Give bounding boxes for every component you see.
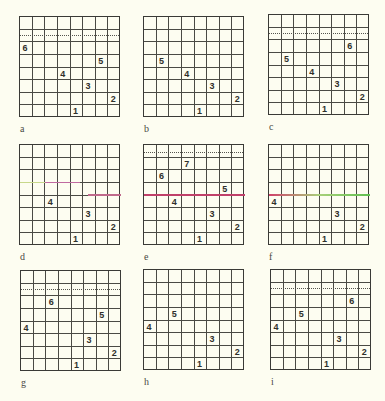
cell-number: 4: [268, 196, 280, 208]
grid-row-line: [271, 332, 370, 333]
grid-column-line: [206, 17, 207, 116]
colored-line-segment: [269, 194, 370, 195]
panel-label: d: [20, 251, 25, 262]
dotted-line: [144, 152, 243, 153]
cell-number: 2: [356, 221, 368, 233]
cell-number: 2: [358, 346, 370, 358]
grid-column-line: [333, 270, 334, 369]
cell-number: 5: [168, 308, 180, 320]
dotted-line: [271, 288, 370, 289]
grid-row-line: [271, 345, 370, 346]
cell-number: 6: [344, 40, 356, 52]
grid-column-line: [346, 270, 347, 369]
cell-number: 7: [181, 158, 193, 170]
cell-number: 4: [44, 196, 56, 208]
panel-label: i: [271, 376, 274, 387]
cell-number: 2: [356, 91, 368, 103]
cell-number: 4: [168, 196, 180, 208]
panel-b: 54321b: [143, 16, 244, 117]
cell-number: 2: [107, 221, 119, 233]
cell-number: 3: [206, 208, 218, 220]
cell-number: 2: [231, 93, 243, 105]
colored-line-segment: [88, 194, 121, 195]
cell-number: 3: [333, 333, 345, 345]
grid-row-line: [20, 92, 119, 93]
grid-row-line: [144, 220, 243, 221]
cell-number: 3: [206, 333, 218, 345]
panel-label: a: [20, 123, 24, 134]
cell-number: 4: [20, 322, 32, 334]
grid-row-line: [144, 345, 243, 346]
cell-number: 3: [83, 334, 95, 346]
cell-number: 1: [70, 233, 82, 245]
cell-number: 4: [143, 321, 155, 333]
cell-number: 4: [306, 66, 318, 78]
cell-number: 5: [156, 55, 168, 67]
panel-label: e: [144, 251, 148, 262]
panel-label: h: [144, 376, 149, 387]
grid-column-line: [83, 271, 84, 370]
cell-number: 3: [82, 80, 94, 92]
grid-row-line: [21, 346, 120, 347]
grid-row-line: [144, 332, 243, 333]
cell-number: 4: [270, 321, 282, 333]
cell-number: 5: [95, 55, 107, 67]
panel-f: 4321f: [268, 144, 369, 245]
cell-number: 1: [194, 233, 206, 245]
cell-number: 4: [181, 68, 193, 80]
grid-row-line: [144, 79, 243, 80]
cell-number: 3: [206, 80, 218, 92]
cell-number: 1: [321, 358, 333, 370]
panel-label: c: [269, 121, 273, 132]
grid-row-line: [271, 320, 370, 321]
cell-number: 2: [108, 347, 120, 359]
cell-number: 5: [281, 53, 293, 65]
panel-a: 654321a: [19, 16, 120, 117]
cell-number: 3: [331, 78, 343, 90]
colored-line-segment: [45, 182, 80, 183]
cell-number: 1: [71, 359, 83, 371]
cell-number: 1: [194, 105, 206, 117]
panel-d: 4321d: [19, 144, 120, 245]
grid-column-line: [344, 15, 345, 114]
grid: 4321: [19, 144, 120, 245]
cell-number: 5: [219, 183, 231, 195]
panel-label: b: [144, 123, 149, 134]
grid: 54321: [143, 269, 244, 370]
cell-number: 5: [96, 309, 108, 321]
grid-row-line: [144, 207, 243, 208]
grid-row-line: [20, 207, 119, 208]
cell-number: 6: [45, 296, 57, 308]
panel-label: f: [269, 251, 272, 262]
grid: 7654321: [143, 144, 244, 245]
grid-row-line: [269, 207, 368, 208]
panel-label: g: [21, 377, 26, 388]
grid-row-line: [21, 333, 120, 334]
panel-i: 654321i: [270, 269, 371, 370]
grid: 654321: [270, 269, 371, 370]
cell-number: 2: [231, 221, 243, 233]
cell-number: 2: [107, 93, 119, 105]
grid-column-line: [82, 17, 83, 116]
grid: 654321: [268, 14, 369, 115]
dotted-line: [269, 33, 368, 34]
grid-row-line: [269, 220, 368, 221]
cell-number: 1: [194, 358, 206, 370]
dotted-line: [21, 289, 120, 290]
grid-column-line: [82, 145, 83, 244]
panel-c: 654321c: [268, 14, 369, 115]
cell-number: 1: [319, 233, 331, 245]
grid-row-line: [269, 90, 368, 91]
grid-row-line: [144, 320, 243, 321]
panel-g: 654321g: [20, 270, 121, 371]
grid-row-line: [20, 79, 119, 80]
cell-number: 6: [156, 170, 168, 182]
grid-row-line: [144, 92, 243, 93]
grid: 54321: [143, 16, 244, 117]
cell-number: 3: [82, 208, 94, 220]
grid-row-line: [20, 220, 119, 221]
cell-number: 2: [231, 346, 243, 358]
grid-column-line: [219, 17, 220, 116]
grid: 4321: [268, 144, 369, 245]
cell-number: 5: [295, 308, 307, 320]
